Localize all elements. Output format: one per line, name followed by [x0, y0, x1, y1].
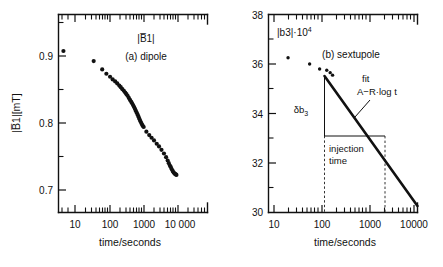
- quantity-label-b: |b3|·104: [277, 26, 312, 38]
- panel-b-x-ticks-top: [274, 15, 414, 23]
- x-tick-label-b-3: 10000: [400, 219, 428, 230]
- panel-tag-b: (b) sextupole: [322, 49, 380, 60]
- data-point: [308, 62, 311, 65]
- data-point: [325, 68, 328, 71]
- data-point: [286, 56, 289, 59]
- fit-formula-label: A−R·log t: [357, 86, 397, 97]
- panel-a-dipole: 0.9 0.8 0.7 |B̅1|[mT]: [0, 0, 222, 267]
- delta-b3-label: δb3: [294, 104, 309, 117]
- delta-b3-construction: [325, 76, 386, 136]
- panel-a-y-ticks: [59, 23, 67, 191]
- quantity-label-b-base: |b3|·10: [277, 27, 308, 38]
- panel-a-axes: [59, 15, 208, 213]
- y-tick-label-a-2: 0.7: [39, 185, 53, 196]
- panel-a-x-ticks-top: [62, 15, 205, 23]
- y-tick-label-b-1: 36: [252, 59, 264, 70]
- data-point: [152, 138, 156, 142]
- fit-label: fit: [362, 73, 370, 84]
- x-tick-label-b-0: 10: [268, 219, 280, 230]
- data-point: [328, 71, 331, 74]
- panel-b-sextupole: 38 36 34 32 30: [221, 0, 443, 267]
- x-axis-title-b: time/seconds: [314, 236, 376, 248]
- delta-b3-label-base: δb: [294, 104, 305, 115]
- y-tick-label-a-1: 0.8: [39, 118, 53, 129]
- y-tick-label-b-4: 30: [252, 207, 264, 218]
- data-point: [144, 130, 148, 134]
- data-point: [159, 148, 163, 152]
- data-series-a: [61, 49, 178, 177]
- x-tick-label-a-0: 10: [69, 219, 81, 230]
- x-tick-label-a-2: 1000: [133, 219, 156, 230]
- panel-b-svg: 38 36 34 32 30: [221, 0, 443, 267]
- x-tick-label-b-2: 1000: [359, 219, 382, 230]
- panel-b-axes: [269, 15, 418, 213]
- y-axis-title-a: |B̅1|[mT]: [10, 93, 22, 132]
- data-point: [92, 59, 96, 63]
- x-tick-label-a-1: 100: [102, 219, 119, 230]
- injection-label-line2: time: [329, 155, 347, 166]
- x-tick-label-a-3: 10 000: [165, 219, 196, 230]
- figure-root: 0.9 0.8 0.7 |B̅1|[mT]: [0, 0, 443, 267]
- panel-b-y-ticks: [269, 39, 277, 188]
- y-tick-label-a-0: 0.9: [39, 51, 53, 62]
- data-point: [104, 72, 108, 76]
- fit-leader-line: [355, 100, 370, 117]
- data-point: [100, 67, 104, 71]
- x-tick-label-b-1: 100: [314, 219, 331, 230]
- x-axis-title-a: time/seconds: [99, 236, 161, 248]
- y-tick-label-b-0: 38: [252, 10, 264, 21]
- data-point: [157, 144, 161, 148]
- quantity-label-a: |B̅1|: [137, 33, 154, 44]
- panel-b-x-ticks-bottom: [274, 205, 414, 213]
- data-point: [142, 125, 146, 129]
- panel-tag-a: (a) dipole: [125, 51, 167, 62]
- data-point: [162, 151, 166, 155]
- y-tick-label-b-2: 34: [252, 109, 264, 120]
- data-point: [331, 73, 334, 76]
- y-tick-label-b-3: 32: [252, 158, 264, 169]
- data-point: [61, 49, 65, 53]
- panel-a-svg: 0.9 0.8 0.7 |B̅1|[mT]: [0, 0, 222, 267]
- panel-a-x-ticks-bottom: [62, 205, 205, 213]
- y-axis-title-a-text: |B̅1|[mT]: [10, 93, 22, 132]
- injection-label-line1: injection: [329, 143, 364, 154]
- delta-b3-label-subscript: 3: [304, 110, 308, 117]
- quantity-label-b-exponent: 4: [308, 26, 312, 33]
- data-point: [174, 173, 178, 177]
- data-point: [318, 67, 321, 70]
